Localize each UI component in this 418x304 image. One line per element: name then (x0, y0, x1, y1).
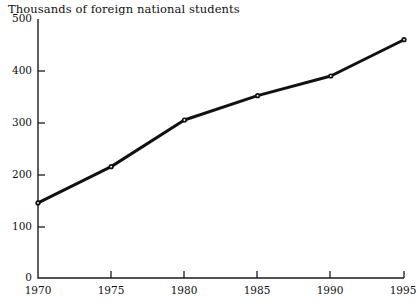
data-point-marker-center (184, 119, 186, 121)
data-point-marker-center (37, 202, 39, 204)
data-point-markers (35, 37, 406, 205)
plot-area (0, 0, 418, 304)
chart-container: Thousands of foreign national students 5… (0, 0, 418, 304)
data-point-marker-center (110, 166, 112, 168)
axis-spines (38, 19, 404, 278)
data-point-marker-center (257, 95, 259, 97)
x-axis-ticks (111, 271, 404, 278)
data-point-marker-center (403, 39, 405, 41)
data-series-line (38, 40, 404, 203)
data-point-marker-center (330, 75, 332, 77)
